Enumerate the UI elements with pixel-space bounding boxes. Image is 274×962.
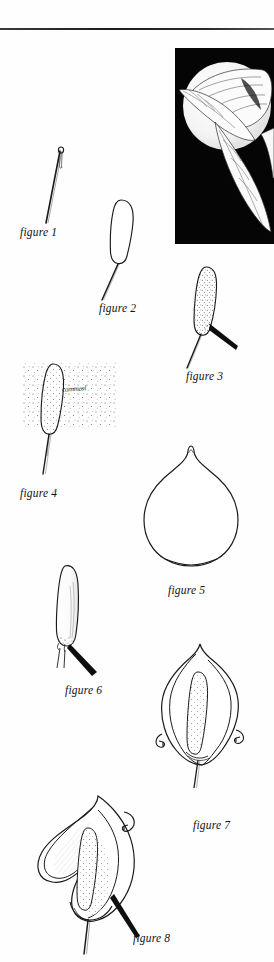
figure-4-drawing: [22, 356, 132, 484]
page-top-rule: [0, 28, 274, 30]
calla-lily-photograph: [175, 48, 274, 244]
figure-6-drawing: [45, 560, 125, 684]
figure-3-caption: figure 3: [186, 370, 223, 382]
figure-6-caption: figure 6: [65, 684, 102, 696]
scanned-page: figure 1 figure 2: [0, 0, 274, 962]
figure-8-caption: figure 8: [133, 932, 170, 944]
figure-2-drawing: [92, 196, 148, 304]
figure-7-caption: figure 7: [193, 819, 230, 831]
figure-1-caption: figure 1: [20, 226, 57, 238]
figure-5-drawing: [135, 440, 247, 576]
figure-4-caption: figure 4: [20, 487, 57, 499]
cornmeal-handwritten-note: cornmeal: [62, 384, 87, 394]
figure-5-caption: figure 5: [168, 584, 205, 596]
figure-7-drawing: [148, 638, 258, 798]
figure-3-drawing: [176, 264, 246, 372]
figure-2-caption: figure 2: [99, 302, 136, 314]
figure-1-drawing: [36, 145, 76, 230]
